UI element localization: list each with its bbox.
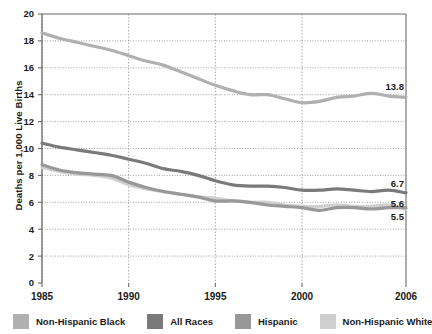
- y-tick-label: 8: [29, 170, 34, 181]
- x-tick-label: 1985: [31, 291, 54, 302]
- legend-label-non-hispanic-white: Non-Hispanic White: [343, 316, 432, 327]
- plot-area: 024681012141618201985199019952000200613.…: [0, 0, 425, 308]
- y-tick-label: 0: [29, 277, 34, 288]
- y-tick-label: 12: [23, 116, 34, 127]
- legend-swatch-all-races: [147, 314, 163, 329]
- x-tick-label: 1995: [204, 291, 227, 302]
- y-tick-label: 4: [29, 224, 35, 235]
- chart-legend: Non-Hispanic Black All Races Hispanic No…: [0, 308, 425, 334]
- y-tick-label: 10: [23, 143, 34, 154]
- legend-swatch-non-hispanic-white: [320, 314, 336, 329]
- legend-swatch-hispanic: [235, 314, 251, 329]
- series-line: [42, 143, 406, 193]
- x-tick-label: 2000: [291, 291, 314, 302]
- legend-item-hispanic[interactable]: Hispanic: [235, 308, 298, 334]
- legend-swatch-non-hispanic-black: [13, 314, 29, 329]
- legend-item-all-races[interactable]: All Races: [147, 308, 213, 334]
- series-value-label: 5.5: [391, 211, 405, 222]
- y-tick-label: 16: [23, 62, 34, 73]
- y-tick-label: 18: [23, 35, 34, 46]
- y-tick-label: 20: [23, 8, 34, 19]
- series-value-label: 6.7: [391, 178, 404, 189]
- legend-label-non-hispanic-black: Non-Hispanic Black: [36, 316, 125, 327]
- series-value-label: 5.6: [391, 198, 404, 209]
- x-tick-label: 1990: [118, 291, 141, 302]
- legend-label-hispanic: Hispanic: [258, 316, 298, 327]
- y-tick-label: 6: [29, 197, 34, 208]
- series-value-label: 13.8: [386, 81, 405, 92]
- legend-item-non-hispanic-white[interactable]: Non-Hispanic White: [320, 308, 432, 334]
- y-tick-label: 14: [23, 89, 34, 100]
- series-line: [42, 165, 406, 211]
- y-tick-label: 2: [29, 251, 34, 262]
- x-tick-label: 2006: [395, 291, 418, 302]
- legend-label-all-races: All Races: [170, 316, 213, 327]
- legend-item-non-hispanic-black[interactable]: Non-Hispanic Black: [13, 308, 125, 334]
